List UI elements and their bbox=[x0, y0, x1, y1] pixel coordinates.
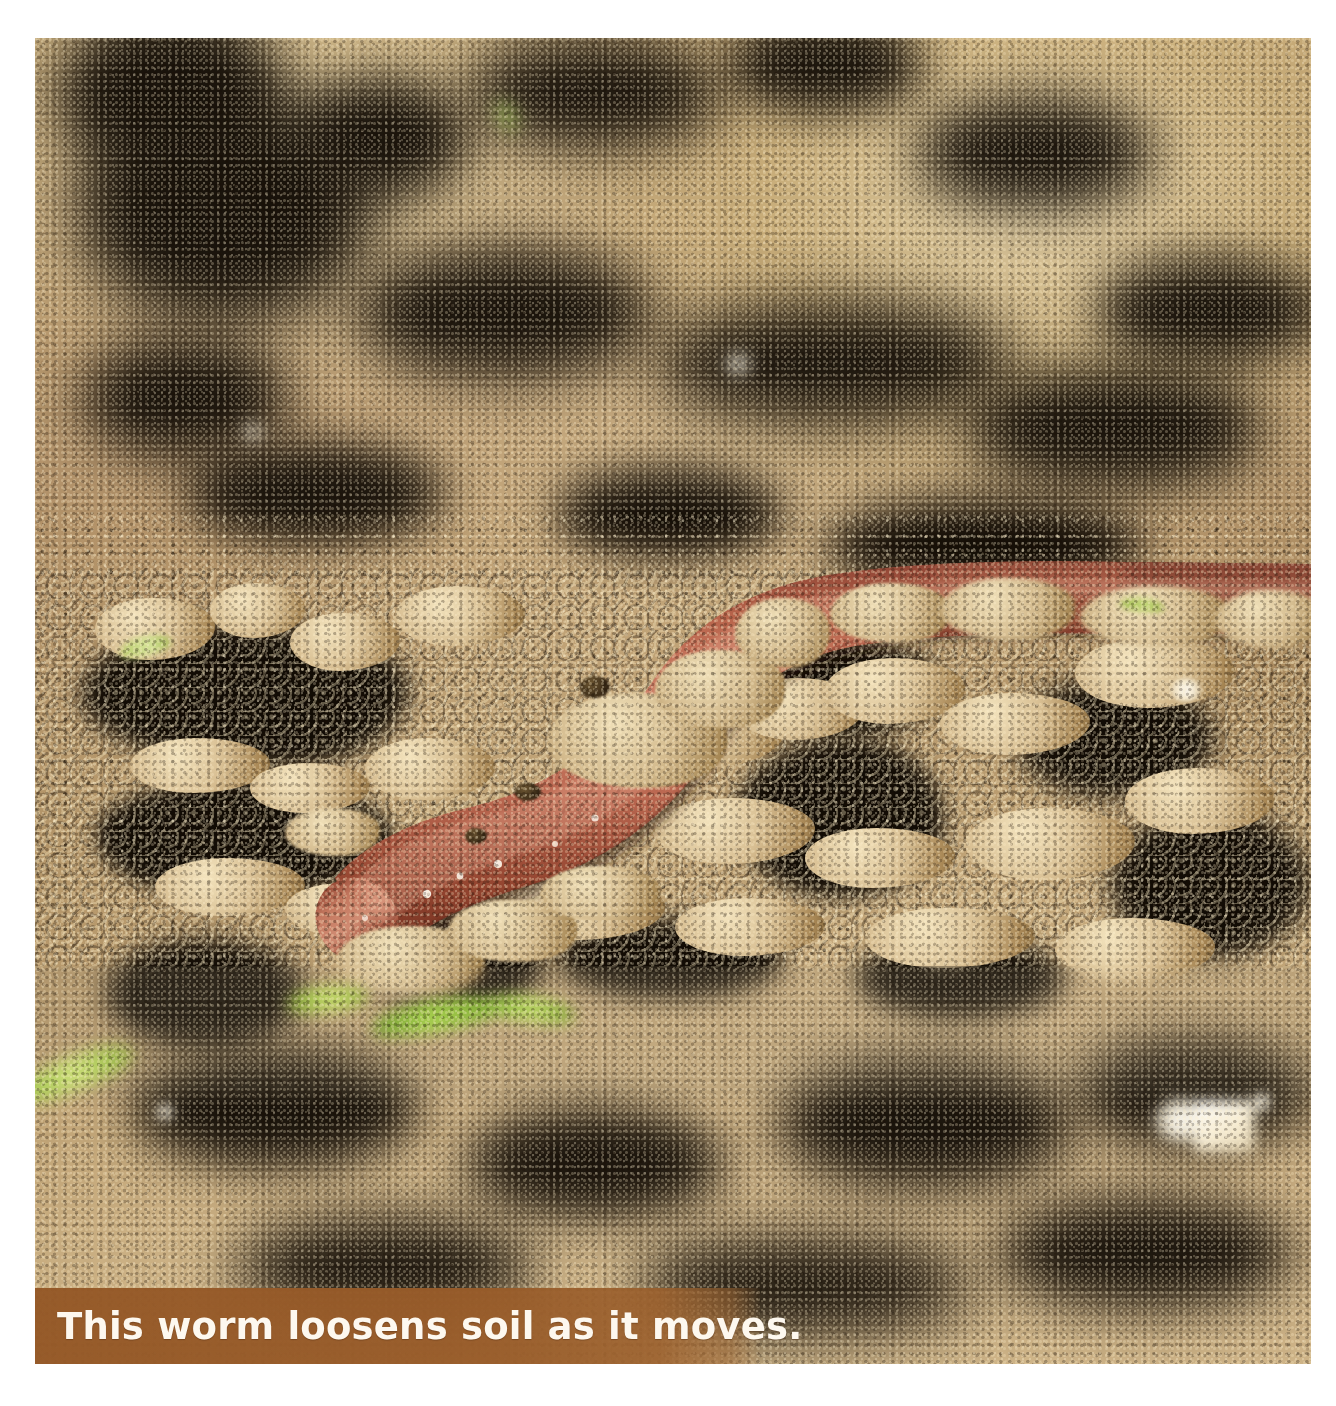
caption-bar: This worm loosens soil as it moves. bbox=[35, 1288, 760, 1364]
photo-earthworm-on-soil bbox=[35, 38, 1311, 1364]
soil-grain-fine bbox=[35, 38, 1311, 1364]
caption-text: This worm loosens soil as it moves. bbox=[57, 1305, 802, 1348]
page-root: This worm loosens soil as it moves. bbox=[0, 0, 1336, 1406]
